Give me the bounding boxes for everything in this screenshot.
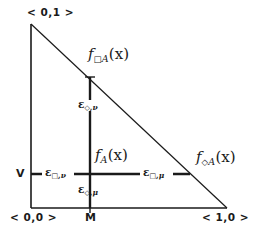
function-plain-subscript: A (101, 154, 108, 165)
function-set-a: A (101, 154, 108, 165)
epsilon-subscript: ◇,ν (84, 103, 97, 112)
function-argument: (x) (215, 148, 235, 166)
subscript-mu: μ (159, 171, 165, 180)
subscript-nu: ν (92, 103, 97, 112)
function-set-a: A (102, 53, 109, 64)
epsilon-label-diamond-nu: ε◇,ν (78, 99, 98, 112)
corner-label-bottom-left: < 0,0 > (10, 212, 57, 223)
point-label-m: M (85, 212, 96, 223)
subscript-mu: μ (92, 188, 98, 197)
function-box-subscript: □A (94, 53, 109, 64)
epsilon-subscript: □,μ (149, 171, 164, 180)
epsilon-subscript: □,ν (51, 171, 65, 180)
function-label-a: fA(x) (95, 148, 128, 164)
function-argument: (x) (108, 146, 128, 164)
function-argument: (x) (109, 45, 129, 63)
epsilon-subscript: ◇,μ (84, 188, 98, 197)
figure-canvas (0, 0, 261, 234)
function-label-diamond-a: f◇A(x) (196, 150, 236, 166)
epsilon-label-diamond-mu: ε◇,μ (78, 184, 98, 197)
corner-label-bottom-right: < 1,0 > (202, 212, 249, 223)
subscript-nu: ν (61, 171, 66, 180)
point-label-v: V (16, 168, 25, 179)
box-operator-icon: □ (94, 54, 102, 64)
function-diamond-subscript: ◇A (202, 156, 216, 167)
simplex-triangle-figure: < 0,1 > < 0,0 > < 1,0 > V M f□A(x) fA(x)… (0, 0, 261, 234)
corner-label-top-left: < 0,1 > (27, 7, 74, 18)
epsilon-label-box-nu: ε□,ν (45, 167, 66, 180)
function-label-box-a: f□A(x) (88, 47, 129, 63)
epsilon-label-box-mu: ε□,μ (143, 167, 164, 180)
